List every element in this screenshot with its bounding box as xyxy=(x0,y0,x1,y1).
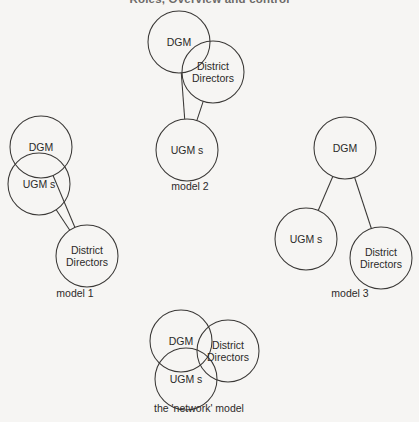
node-dgm: DGM xyxy=(314,117,376,179)
models-diagram: DGMUGM sDistrictDirectorsmodel 1DGMDistr… xyxy=(0,0,419,422)
node-label: UGM s xyxy=(23,178,56,190)
caption-network-model: the 'network' model xyxy=(154,402,244,414)
node-label: DGM xyxy=(167,36,192,48)
network-model: DGMDistrictDirectorsUGM sthe 'network' m… xyxy=(150,310,259,414)
node-label: UGM s xyxy=(290,233,323,245)
model-1: DGMUGM sDistrictDirectorsmodel 1 xyxy=(8,116,118,299)
caption-model-3: model 3 xyxy=(331,287,369,299)
connector-dgm-to-ugms xyxy=(318,176,333,210)
node-dgm: DGM xyxy=(10,116,72,178)
node-label: DGM xyxy=(169,335,194,347)
node-ugms: UGM s xyxy=(155,348,217,410)
node-label: DGM xyxy=(29,141,54,153)
caption-model-2: model 2 xyxy=(171,180,209,192)
caption-model-1: model 1 xyxy=(56,287,94,299)
node-label: UGM s xyxy=(171,144,204,156)
model-2: DGMDistrictDirectorsUGM smodel 2 xyxy=(148,11,244,192)
model-3: DGMUGM sDistrictDirectorsmodel 3 xyxy=(275,117,412,299)
node-ugms: UGM s xyxy=(156,119,218,181)
node-label: DGM xyxy=(333,142,358,154)
figure-page: Roles, Overview and control DGMUGM sDist… xyxy=(0,0,419,422)
connector-directors-to-ugms xyxy=(197,101,203,120)
node-directors: DistrictDirectors xyxy=(197,320,259,382)
node-directors: DistrictDirectors xyxy=(182,41,244,103)
node-directors: DistrictDirectors xyxy=(350,227,412,289)
node-label: UGM s xyxy=(170,373,203,385)
node-label: DistrictDirectors xyxy=(192,60,234,84)
node-label: DistrictDirectors xyxy=(207,339,249,363)
node-directors: DistrictDirectors xyxy=(56,225,118,287)
node-label: DistrictDirectors xyxy=(360,246,402,270)
node-label: DistrictDirectors xyxy=(66,244,108,268)
node-ugms: UGM s xyxy=(8,153,70,215)
node-ugms: UGM s xyxy=(275,208,337,270)
connector-ugms-to-directors xyxy=(56,210,70,230)
connector-dgm-to-directors xyxy=(355,177,372,228)
